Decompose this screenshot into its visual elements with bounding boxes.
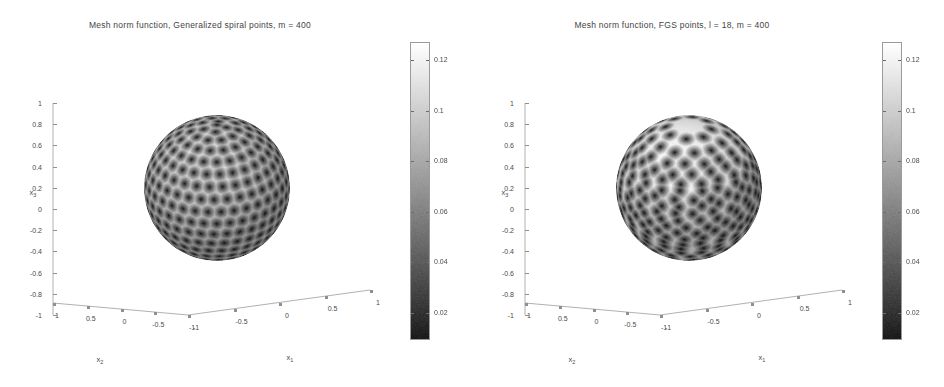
figure-panel-right: Mesh norm function, FGS points, l = 18, …: [472, 0, 944, 387]
x1-axis-tick: [797, 296, 800, 299]
x1-axis-tick-label: 1: [848, 299, 852, 306]
x2-axis-tick: [525, 303, 528, 306]
colorbar-tick-label: 0.04: [906, 258, 920, 265]
z-axis-tick-label: 0: [38, 206, 42, 213]
z-axis-tick: [525, 251, 529, 252]
x1-axis-tick: [660, 315, 663, 318]
axes-3d: 10.80.60.40.20-0.2-0.4-0.6-0.8-110.50-0.…: [472, 0, 872, 387]
x1-axis-tick-label: 0.5: [800, 305, 810, 312]
z-axis-tick: [525, 294, 529, 295]
colorbar-tick-label: 0.06: [906, 207, 920, 214]
z-axis-tick-label: -1: [508, 312, 514, 319]
colorbar-tick: [411, 111, 414, 112]
colorbar-tick: [883, 212, 886, 213]
colorbar-tick-label: 0.12: [906, 56, 920, 63]
z-axis-tick: [525, 209, 529, 210]
x1-axis-tick: [706, 309, 709, 312]
colorbar-tick-label: 0.12: [434, 56, 448, 63]
sphere-surface-plot: [616, 115, 762, 261]
x1-axis-tick: [751, 303, 754, 306]
x1-axis-tick: [234, 309, 237, 312]
z-axis-tick: [53, 209, 57, 210]
x1-axis-tick: [370, 290, 373, 293]
colorbar-tick: [411, 60, 414, 61]
z-axis-tick: [53, 103, 57, 104]
z-axis-tick: [53, 167, 57, 168]
x1-axis-tick: [279, 303, 282, 306]
z-axis-tick-label: 0.6: [504, 142, 514, 149]
z-axis-tick-label: 1: [38, 100, 42, 107]
colorbar-tick: [883, 262, 886, 263]
colorbar-tick: [898, 161, 901, 162]
z-axis-tick: [525, 188, 529, 189]
z-axis-tick: [525, 103, 529, 104]
x1-axis-name: x1: [759, 353, 766, 364]
x2-axis-tick-label: 0: [595, 318, 599, 325]
colorbar: [882, 42, 902, 340]
x1-axis-tick-label: 0: [285, 311, 289, 318]
x1-axis-name-subscript: 1: [762, 357, 765, 363]
x3-axis-name: x3: [502, 188, 509, 199]
z-axis-tick-label: -1: [36, 312, 42, 319]
z-axis-tick-label: 0: [510, 206, 514, 213]
z-axis-tick-label: -0.6: [502, 269, 514, 276]
colorbar-tick-label: 0.02: [434, 309, 448, 316]
x2-axis-name: x2: [97, 355, 104, 366]
x3-axis-name-subscript: 3: [33, 192, 36, 198]
colorbar-tick: [883, 161, 886, 162]
x1-axis-tick-label: -1: [193, 324, 199, 331]
x1-axis-tick: [325, 296, 328, 299]
figure-panel-left: Mesh norm function, Generalized spiral p…: [0, 0, 472, 387]
x2-axis-tick-label: 0: [123, 318, 127, 325]
x2-axis-tick-label: -0.5: [624, 321, 636, 328]
z-axis-tick: [53, 273, 57, 274]
x1-axis-tick-label: -1: [665, 324, 671, 331]
colorbar-tick: [426, 60, 429, 61]
x1-axis-tick-label: 0.5: [328, 305, 338, 312]
colorbar-tick-label: 0.1: [434, 106, 444, 113]
z-axis-tick-label: -0.4: [30, 248, 42, 255]
x2-axis-name: x2: [569, 355, 576, 366]
z-axis-tick: [53, 294, 57, 295]
colorbar-tick: [426, 111, 429, 112]
x2-axis-tick-label: 0.5: [86, 315, 96, 322]
x1-axis-tick: [842, 290, 845, 293]
sphere-surface-plot: [144, 115, 290, 261]
z-axis-tick-label: 0.8: [504, 121, 514, 128]
colorbar-tick: [411, 313, 414, 314]
x2-axis-tick-label: 0.5: [558, 315, 568, 322]
x2-axis-tick: [87, 306, 90, 309]
z-axis-tick-label: 0.8: [32, 121, 42, 128]
colorbar-tick: [426, 262, 429, 263]
colorbar-tick: [898, 60, 901, 61]
colorbar-tick: [883, 111, 886, 112]
z-axis-tick: [53, 230, 57, 231]
colorbar-tick: [426, 161, 429, 162]
z-axis-tick: [53, 188, 57, 189]
colorbar-tick: [426, 212, 429, 213]
colorbar-tick: [411, 212, 414, 213]
colorbar-tick-label: 0.08: [434, 157, 448, 164]
z-axis-tick-label: 1: [510, 100, 514, 107]
x2-axis-tick-label: 1: [55, 312, 59, 319]
z-axis-tick: [53, 124, 57, 125]
z-axis-tick-label: -0.2: [30, 227, 42, 234]
axes-3d: 10.80.60.40.20-0.2-0.4-0.6-0.8-110.50-0.…: [0, 0, 400, 387]
z-axis-tick-label: -0.2: [502, 227, 514, 234]
x1-axis-tick-label: -0.5: [707, 317, 719, 324]
x2-axis-tick: [559, 306, 562, 309]
x1-axis-tick: [188, 315, 191, 318]
x3-axis-name-subscript: 3: [505, 192, 508, 198]
colorbar: [410, 42, 430, 340]
x3-axis-name: x3: [30, 188, 37, 199]
x2-axis-tick: [154, 312, 157, 315]
z-axis-tick: [525, 273, 529, 274]
colorbar-tick-label: 0.1: [906, 106, 916, 113]
z-axis-tick: [53, 251, 57, 252]
x1-axis-name: x1: [287, 353, 294, 364]
z-axis-tick: [53, 145, 57, 146]
x1-axis-tick-label: 1: [376, 299, 380, 306]
colorbar-tick-label: 0.08: [906, 157, 920, 164]
colorbar-tick: [411, 262, 414, 263]
colorbar-tick: [883, 313, 886, 314]
